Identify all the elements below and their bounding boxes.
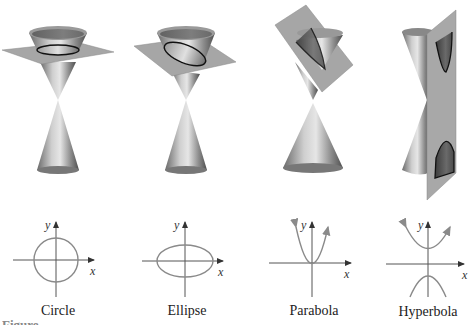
graph-hyperbola [386, 222, 464, 297]
y-axis-label: y [45, 218, 50, 233]
graph-parabola [269, 222, 351, 297]
double-cone-parabola [275, 5, 353, 173]
y-axis-label: y [301, 218, 306, 233]
y-axis-label: y [174, 218, 179, 233]
double-cone-ellipse [134, 26, 236, 174]
x-axis-label: x [344, 267, 349, 282]
y-axis-label: y [418, 218, 423, 233]
label-circle: Circle [41, 303, 75, 319]
double-cone-hyperbola [402, 10, 456, 200]
x-axis-label: x [218, 265, 223, 280]
figure-caption-clipped: Figure [2, 317, 39, 325]
label-ellipse: Ellipse [168, 303, 207, 319]
label-parabola: Parabola [290, 303, 339, 319]
double-cone-circle [2, 26, 114, 174]
x-axis-label: x [90, 264, 95, 279]
label-hyperbola: Hyperbola [398, 304, 457, 320]
x-axis-label: x [462, 268, 467, 283]
conic-sections-figure: y x y x y x y x Circle Ellipse Parabola … [0, 0, 475, 325]
graph-circle [13, 222, 94, 297]
graph-ellipse [142, 222, 223, 297]
